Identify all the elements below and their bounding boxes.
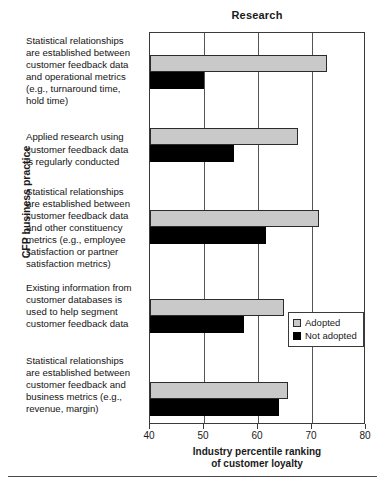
category-label-line: customer feedback data — [26, 318, 146, 330]
category-label-line: satisfaction metrics) — [26, 258, 146, 270]
x-tick-label-60: 60 — [242, 430, 272, 441]
category-label-line: Statistical relationships — [26, 35, 146, 47]
chart-figure: Research CFP business practice Statistic… — [0, 0, 385, 488]
category-label-line: hold time) — [26, 95, 146, 107]
bar-not-adopted — [150, 145, 234, 162]
category-label-line: Existing information from — [26, 282, 146, 294]
bar-adopted — [150, 210, 319, 227]
category-label-line: revenue, margin) — [26, 403, 146, 415]
category-label-line: customer feedback data — [26, 144, 146, 156]
category-label-line: are established between — [26, 198, 146, 210]
x-axis-title-line2: of customer loyalty — [149, 458, 365, 470]
x-tick-80 — [365, 424, 366, 429]
bar-group — [150, 128, 364, 162]
x-tick-50 — [203, 424, 204, 429]
x-axis-title: Industry percentile ranking of customer … — [149, 446, 365, 470]
category-label-line: are established between — [26, 367, 146, 379]
x-tick-60 — [257, 424, 258, 429]
category-label: Statistical relationshipsare established… — [26, 355, 146, 415]
category-label: Statistical relationshipsare established… — [26, 35, 146, 108]
category-label-line: (e.g., turnaround time, — [26, 83, 146, 95]
bar-group — [150, 210, 364, 244]
chart-legend: Adopted Not adopted — [288, 312, 364, 347]
category-label-line: business metrics (e.g., — [26, 391, 146, 403]
category-label-line: satisfaction or partner — [26, 246, 146, 258]
bar-adopted — [150, 382, 288, 399]
bar-adopted — [150, 55, 327, 72]
bar-group — [150, 382, 364, 416]
x-tick-label-50: 50 — [188, 430, 218, 441]
x-tick-40 — [149, 424, 150, 429]
category-label-line: customer feedback data — [26, 59, 146, 71]
bar-not-adopted — [150, 227, 266, 244]
category-label-line: Applied research using — [26, 131, 146, 143]
x-tick-70 — [311, 424, 312, 429]
category-label-line: and other constituency — [26, 222, 146, 234]
plot-area — [149, 32, 365, 424]
bar-not-adopted — [150, 399, 279, 416]
category-label: Existing information fromcustomer databa… — [26, 282, 146, 330]
bar-group — [150, 55, 364, 89]
x-tick-label-70: 70 — [296, 430, 326, 441]
category-label-line: Statistical relationships — [26, 355, 146, 367]
category-label: Statistical relationshipsare established… — [26, 186, 146, 271]
x-axis-title-line1: Industry percentile ranking — [149, 446, 365, 458]
category-label-line: used to help segment — [26, 306, 146, 318]
legend-swatch-not-adopted-icon — [293, 332, 301, 340]
bar-adopted — [150, 299, 284, 316]
chart-title: Research — [149, 9, 365, 21]
legend-label-not-adopted: Not adopted — [305, 330, 357, 341]
category-label-line: metrics (e.g., employee — [26, 234, 146, 246]
x-tick-label-80: 80 — [350, 430, 380, 441]
bottom-divider — [8, 476, 377, 477]
category-label-line: customer feedback data — [26, 210, 146, 222]
category-label-line: is regularly conducted — [26, 156, 146, 168]
category-label-line: customer databases is — [26, 294, 146, 306]
category-label-line: customer feedback and — [26, 379, 146, 391]
legend-item-adopted: Adopted — [293, 316, 359, 329]
category-label-line: and operational metrics — [26, 71, 146, 83]
legend-item-not-adopted: Not adopted — [293, 329, 359, 342]
category-label: Applied research usingcustomer feedback … — [26, 131, 146, 167]
bar-not-adopted — [150, 72, 204, 89]
legend-label-adopted: Adopted — [305, 317, 340, 328]
legend-swatch-adopted-icon — [293, 319, 301, 327]
bar-adopted — [150, 128, 298, 145]
category-label-line: are established between — [26, 47, 146, 59]
category-label-line: Statistical relationships — [26, 186, 146, 198]
x-tick-label-40: 40 — [134, 430, 164, 441]
bar-not-adopted — [150, 316, 244, 333]
